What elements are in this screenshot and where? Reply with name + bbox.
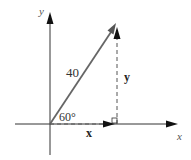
y-axis-arrow-icon xyxy=(47,12,54,24)
x-axis-label: x xyxy=(177,131,182,142)
main-vector xyxy=(50,23,116,124)
x-component-arrow-icon xyxy=(103,121,115,128)
y-component-label: y xyxy=(124,71,130,83)
y-axis-label: y xyxy=(39,6,44,17)
y-axis xyxy=(47,12,54,155)
x-component-label: x xyxy=(86,127,92,139)
vector-arrow-icon xyxy=(108,23,117,35)
x-axis xyxy=(15,121,178,128)
x-axis-arrow-icon xyxy=(166,121,178,128)
y-component xyxy=(114,27,121,124)
angle-label: 60° xyxy=(59,111,76,123)
diagram-canvas xyxy=(0,0,191,160)
right-angle-marker-icon xyxy=(112,118,117,123)
magnitude-label: 40 xyxy=(66,66,79,79)
vector-diagram: y x 40 60° y x xyxy=(0,0,191,160)
